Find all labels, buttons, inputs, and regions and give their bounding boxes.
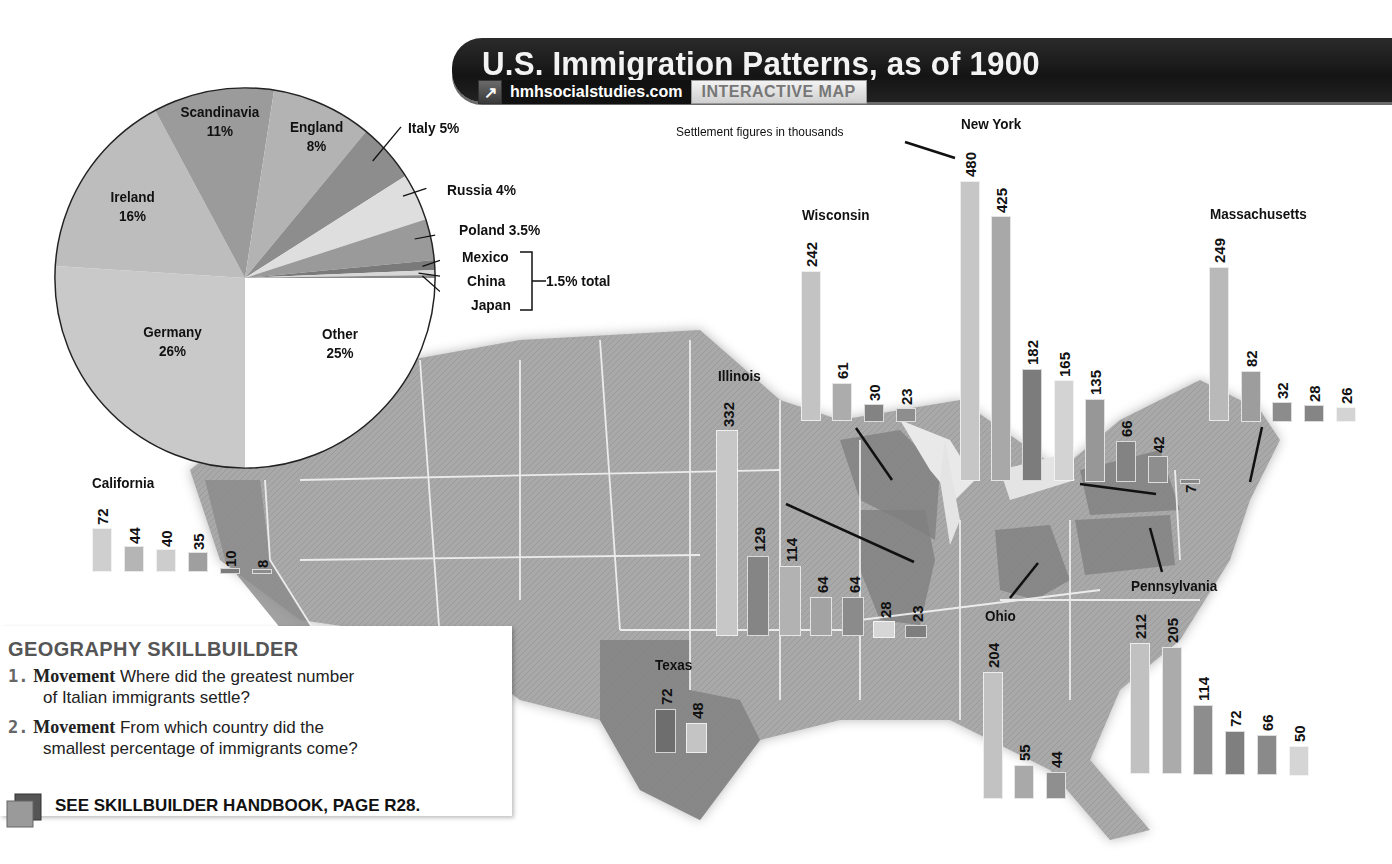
handbook-icon [5,792,43,828]
state-label-texas: Texas [655,656,692,673]
interactive-map-link[interactable]: ↗ hmhsocialstudies.com INTERACTIVE MAP [478,80,867,104]
geography-skillbuilder-box: GEOGRAPHY SKILLBUILDER 1. Movement Where… [0,626,512,816]
settlement-note: Settlement figures in thousands [676,124,844,139]
state-label-pennsylvania: Pennsylvania [1131,577,1217,594]
page-title: U.S. Immigration Patterns, as of 1900 [482,44,1040,83]
callout-japan: Japan [471,296,511,313]
bracket [518,248,548,314]
pie-label-ireland: Ireland16% [110,187,154,225]
question-2: 2. Movement From which country did the s… [8,717,358,759]
callout-china: China [467,272,505,289]
skillbuilder-heading: GEOGRAPHY SKILLBUILDER [8,638,299,661]
pie-label-scandinavia: Scandinavia11% [180,102,259,140]
pie-slice-germany [55,266,245,468]
callout-russia: Russia 4% [447,181,516,198]
pie-label-england: England8% [290,117,343,155]
callout-poland: Poland 3.5% [459,221,540,238]
skillbuilder-reference: SEE SKILLBUILDER HANDBOOK, PAGE R28. [55,796,420,816]
state-label-california: California [92,474,154,491]
state-label-new-york: New York [961,115,1021,132]
pie-label-other: Other25% [322,324,358,362]
callout-italy: Italy 5% [408,119,459,136]
state-label-wisconsin: Wisconsin [802,206,869,223]
interactive-map-tag[interactable]: INTERACTIVE MAP [691,80,867,104]
callout-mexico: Mexico [462,248,509,265]
state-label-illinois: Illinois [718,367,761,384]
question-1: 1. Movement Where did the greatest numbe… [8,666,354,708]
state-label-ohio: Ohio [985,607,1016,624]
background-text [560,8,564,24]
immigrant-origin-pie-chart [50,83,440,473]
arrow-up-right-icon: ↗ [478,80,502,104]
web-url[interactable]: hmhsocialstudies.com [502,80,691,104]
pie-slice-other [245,278,435,468]
callout-small-total: 1.5% total [546,272,610,289]
pie-label-germany: Germany26% [143,322,202,360]
state-label-massachusetts: Massachusetts [1210,205,1307,222]
